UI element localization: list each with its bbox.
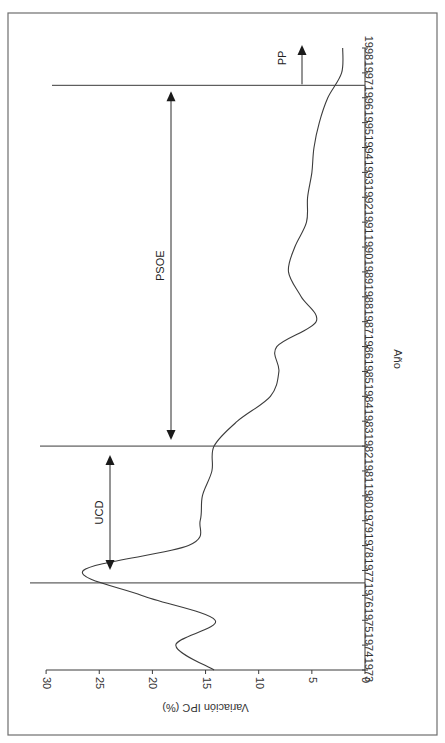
y-tick-label: 25 — [94, 677, 106, 689]
x-tick-label: 1974 — [363, 633, 375, 657]
x-tick-label: 1979 — [363, 508, 375, 532]
x-tick-label: 1989 — [363, 260, 375, 284]
x-tick-label: 1981 — [363, 459, 375, 483]
y-tick-label: 15 — [201, 677, 213, 689]
y-tick-label: 20 — [147, 677, 159, 689]
x-tick-label: 1976 — [363, 583, 375, 607]
x-tick-label: 1983 — [363, 409, 375, 433]
x-tick-label: 1988 — [363, 285, 375, 309]
annotation-label: PP — [276, 51, 288, 66]
arrow-head-icon — [167, 91, 176, 101]
x-tick-label: 1996 — [363, 86, 375, 110]
y-tick-label: 5 — [307, 677, 319, 683]
chart: 1973197419751976197719781979198019811982… — [0, 0, 445, 743]
x-tick-label: 1986 — [363, 334, 375, 358]
axes: 1973197419751976197719781979198019811982… — [41, 36, 404, 714]
x-tick-label: 1980 — [363, 484, 375, 508]
x-tick-label: 1995 — [363, 110, 375, 134]
x-tick-label: 1994 — [363, 135, 375, 159]
x-tick-label: 1997 — [363, 61, 375, 85]
x-tick-label: 1990 — [363, 235, 375, 259]
annotations: UCDPSOEPP — [93, 45, 307, 570]
y-tick-label: 30 — [41, 677, 53, 689]
annotation-label: PSOE — [154, 250, 166, 281]
x-tick-label: 1993 — [363, 160, 375, 184]
x-tick-label: 1991 — [363, 210, 375, 234]
arrow-head-icon — [106, 560, 115, 570]
annotation-label: UCD — [93, 501, 105, 525]
x-tick-label: 1984 — [363, 384, 375, 408]
y-tick-label: 10 — [254, 677, 266, 689]
reference-lines — [30, 85, 365, 583]
annotation-pp: PP — [276, 51, 302, 85]
x-tick-label: 1977 — [363, 558, 375, 582]
x-tick-label: 1992 — [363, 185, 375, 209]
x-tick-label: 1985 — [363, 359, 375, 383]
annotation-ucd: UCD — [93, 463, 110, 562]
arrow-head-icon — [298, 45, 307, 55]
arrow-head-icon — [167, 430, 176, 440]
x-axis-title: Año — [392, 349, 404, 369]
ipc-line-series — [82, 48, 343, 670]
x-tick-label: 1998 — [363, 36, 375, 60]
x-tick-label: 1987 — [363, 309, 375, 333]
x-tick-label: 1975 — [363, 608, 375, 632]
arrow-head-icon — [106, 455, 115, 465]
y-tick-label: 0 — [360, 677, 372, 683]
x-tick-label: 1978 — [363, 533, 375, 557]
annotation-psoe: PSOE — [154, 99, 171, 432]
y-axis-title: Variación IPC (%) — [162, 702, 249, 714]
